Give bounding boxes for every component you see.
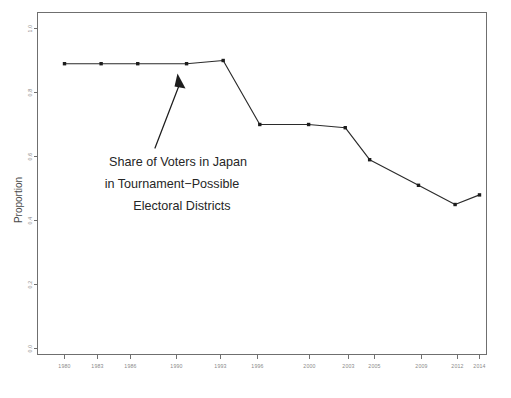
data-point <box>344 126 347 129</box>
data-point <box>368 158 371 161</box>
chart-figure: 1.0 0.8 0.6 0.4 0.2 0.0 Proportion 1980 <box>0 0 511 398</box>
y-tick-label: 0.6 <box>27 153 33 161</box>
data-point <box>99 62 102 65</box>
x-tick-label: 2009 <box>415 363 427 369</box>
data-point <box>453 203 456 206</box>
y-tick-label: 0.8 <box>27 89 33 97</box>
x-tick-label: 1983 <box>91 363 103 369</box>
x-tick-label: 2000 <box>303 363 315 369</box>
data-point <box>307 123 310 126</box>
y-tick-label: 1.0 <box>27 25 33 33</box>
x-tick-label: 2005 <box>368 363 380 369</box>
y-tick-label: 0.0 <box>27 345 33 353</box>
annotation-line-3: Electoral Districts <box>133 199 230 213</box>
x-tick-label: 1996 <box>251 363 263 369</box>
y-tick-label: 0.4 <box>27 217 33 225</box>
x-tick-label: 2012 <box>451 363 463 369</box>
y-tick-label: 0.2 <box>27 281 33 289</box>
data-point <box>258 123 261 126</box>
x-tick-label: 1980 <box>58 363 70 369</box>
data-point <box>185 62 188 65</box>
x-tick-label: 2003 <box>342 363 354 369</box>
y-axis-title: Proportion <box>13 177 24 223</box>
annotation-line-1: Share of Voters in Japan <box>109 155 247 169</box>
x-tick-label: 1986 <box>124 363 136 369</box>
x-tick-label: 1993 <box>214 363 226 369</box>
x-tick-label: 2014 <box>473 363 485 369</box>
data-point <box>63 62 66 65</box>
data-point <box>136 62 139 65</box>
x-tick-label: 1990 <box>170 363 182 369</box>
annotation-line-2: in Tournament−Possible <box>105 177 240 191</box>
data-point <box>478 193 481 196</box>
data-point <box>221 59 224 62</box>
line-chart-svg: 1.0 0.8 0.6 0.4 0.2 0.0 Proportion 1980 <box>0 0 511 398</box>
data-point <box>417 184 420 187</box>
chart-background <box>0 0 511 398</box>
